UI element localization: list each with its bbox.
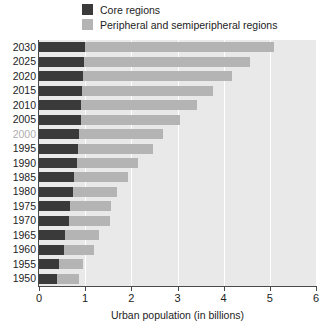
x-axis-tick-mark bbox=[270, 287, 271, 291]
bar-row bbox=[39, 158, 138, 168]
bar-segment-peripheral bbox=[59, 259, 83, 269]
urban-population-bar-chart: Core regions Peripheral and semiperipher… bbox=[0, 0, 328, 330]
bar-segment-peripheral bbox=[69, 216, 110, 226]
x-axis-tick-label: 2 bbox=[119, 292, 143, 305]
bar-segment-core bbox=[39, 187, 73, 197]
bar-row bbox=[39, 201, 111, 211]
bar-segment-peripheral bbox=[81, 100, 196, 110]
y-axis-tick-label: 1950 bbox=[2, 273, 36, 284]
bars-layer bbox=[39, 40, 316, 286]
bar-row bbox=[39, 144, 153, 154]
legend-label-peripheral: Peripheral and semiperipheral regions bbox=[100, 19, 277, 31]
bar-segment-core bbox=[39, 129, 79, 139]
y-axis-tick-label: 1995 bbox=[2, 143, 36, 154]
bar-row bbox=[39, 71, 232, 81]
x-axis-tick-mark bbox=[39, 287, 40, 291]
y-axis-tick-label: 2025 bbox=[2, 56, 36, 67]
y-axis-tick-label: 2015 bbox=[2, 85, 36, 96]
chart-legend: Core regions Peripheral and semiperipher… bbox=[0, 2, 328, 36]
bar-segment-peripheral bbox=[83, 71, 232, 81]
legend-label-core: Core regions bbox=[100, 4, 160, 16]
y-axis-tick-label: 1970 bbox=[2, 215, 36, 226]
bar-segment-peripheral bbox=[77, 158, 138, 168]
x-axis-tick-mark bbox=[85, 287, 86, 291]
peripheral-swatch-icon bbox=[82, 19, 93, 30]
bar-segment-core bbox=[39, 230, 65, 240]
bar-row bbox=[39, 230, 99, 240]
y-axis-tick-label: 1985 bbox=[2, 172, 36, 183]
bar-row bbox=[39, 86, 213, 96]
x-axis-tick-label: 5 bbox=[258, 292, 282, 305]
bar-row bbox=[39, 245, 94, 255]
y-axis-tick-label: 2030 bbox=[2, 42, 36, 53]
bar-segment-peripheral bbox=[65, 230, 99, 240]
bar-row bbox=[39, 172, 128, 182]
bar-segment-peripheral bbox=[82, 86, 213, 96]
x-axis-tick-mark bbox=[224, 287, 225, 291]
y-axis-tick-label: 1955 bbox=[2, 259, 36, 270]
bar-row bbox=[39, 115, 180, 125]
x-axis-tick-label: 4 bbox=[212, 292, 236, 305]
bar-segment-core bbox=[39, 259, 59, 269]
x-axis-tick-label: 6 bbox=[304, 292, 328, 305]
y-axis-tick-label: 1960 bbox=[2, 244, 36, 255]
y-axis-tick-label: 1965 bbox=[2, 230, 36, 241]
bar-segment-core bbox=[39, 172, 74, 182]
bar-row bbox=[39, 187, 117, 197]
bar-segment-core bbox=[39, 86, 82, 96]
y-axis-tick-label: 1980 bbox=[2, 186, 36, 197]
x-axis-tick-label: 0 bbox=[27, 292, 51, 305]
bar-segment-core bbox=[39, 115, 81, 125]
y-axis-tick-label: 1990 bbox=[2, 158, 36, 169]
core-swatch-icon bbox=[82, 4, 93, 15]
y-axis-labels: 2030202520202015201020052000199519901985… bbox=[0, 40, 36, 286]
y-axis-line bbox=[38, 40, 39, 287]
x-axis-labels: 0123456 bbox=[0, 292, 328, 306]
x-axis-title: Urban population (in billions) bbox=[39, 309, 316, 321]
x-axis-tick-label: 3 bbox=[166, 292, 190, 305]
bar-segment-core bbox=[39, 201, 70, 211]
x-axis-tick-mark bbox=[178, 287, 179, 291]
y-axis-tick-label: 1975 bbox=[2, 201, 36, 212]
y-axis-tick-label: 2010 bbox=[2, 100, 36, 111]
bar-segment-core bbox=[39, 274, 57, 284]
bar-segment-core bbox=[39, 216, 69, 226]
y-axis-tick-label: 2005 bbox=[2, 114, 36, 125]
bar-segment-peripheral bbox=[84, 57, 250, 67]
bar-segment-peripheral bbox=[81, 115, 180, 125]
legend-item-peripheral: Peripheral and semiperipheral regions bbox=[82, 17, 328, 32]
bar-row bbox=[39, 129, 163, 139]
x-axis-tick-label: 1 bbox=[73, 292, 97, 305]
bar-row bbox=[39, 216, 110, 226]
bar-segment-peripheral bbox=[85, 42, 273, 52]
bar-segment-core bbox=[39, 100, 81, 110]
bar-segment-core bbox=[39, 42, 85, 52]
bar-row bbox=[39, 100, 197, 110]
bar-segment-core bbox=[39, 71, 83, 81]
plot-area bbox=[39, 40, 316, 286]
bar-segment-core bbox=[39, 144, 78, 154]
y-axis-tick-label: 2000 bbox=[2, 129, 36, 140]
bar-row bbox=[39, 274, 79, 284]
bar-row bbox=[39, 259, 83, 269]
bar-segment-peripheral bbox=[74, 172, 128, 182]
bar-segment-core bbox=[39, 57, 84, 67]
bar-segment-peripheral bbox=[79, 129, 163, 139]
bar-segment-peripheral bbox=[64, 245, 94, 255]
bar-segment-core bbox=[39, 158, 77, 168]
bar-segment-peripheral bbox=[73, 187, 117, 197]
bar-segment-peripheral bbox=[70, 201, 111, 211]
bar-segment-peripheral bbox=[78, 144, 153, 154]
bar-segment-core bbox=[39, 245, 64, 255]
x-axis-tick-mark bbox=[316, 287, 317, 291]
y-axis-tick-label: 2020 bbox=[2, 71, 36, 82]
bar-row bbox=[39, 57, 250, 67]
legend-item-core: Core regions bbox=[82, 2, 328, 17]
x-axis-tick-mark bbox=[131, 287, 132, 291]
bar-segment-peripheral bbox=[57, 274, 79, 284]
bar-row bbox=[39, 42, 274, 52]
